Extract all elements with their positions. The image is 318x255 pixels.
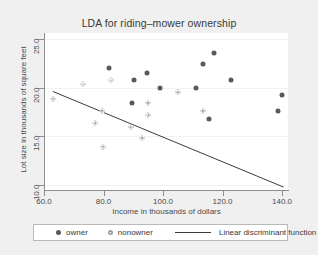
x-axis-label: Income in thousands of dollars xyxy=(44,207,289,216)
data-point-nonowner xyxy=(145,112,150,117)
legend-label-nonowner: nonowner xyxy=(118,228,153,237)
data-point-owner xyxy=(275,109,280,114)
data-point-owner xyxy=(211,50,216,55)
data-point-nonowner xyxy=(80,81,85,86)
data-point-nonowner xyxy=(175,89,180,94)
y-tick-label: 25.0 xyxy=(33,38,42,54)
x-tick xyxy=(104,191,105,196)
data-point-nonowner xyxy=(100,145,105,150)
owner-marker-icon xyxy=(56,230,61,235)
chart-title: LDA for riding–mower ownership xyxy=(0,17,318,29)
x-tick xyxy=(163,191,164,196)
data-point-nonowner xyxy=(129,124,134,129)
data-point-owner xyxy=(201,62,206,67)
data-point-owner xyxy=(193,85,198,90)
x-tick-label: 120.0 xyxy=(213,197,233,206)
data-point-owner xyxy=(107,66,112,71)
x-tick-label: 60.0 xyxy=(36,197,52,206)
chart-figure: LDA for riding–mower ownership 10.015.02… xyxy=(0,0,318,255)
x-tick xyxy=(223,191,224,196)
discriminant-line-path xyxy=(53,92,284,188)
linear-discriminant-line xyxy=(44,33,288,190)
chart-legend: owner nonowner Linear discriminant funct… xyxy=(33,224,288,241)
data-point-nonowner xyxy=(92,120,97,125)
data-point-nonowner xyxy=(146,101,151,106)
x-tick-label: 100.0 xyxy=(153,197,173,206)
data-point-owner xyxy=(207,116,212,121)
x-tick xyxy=(44,191,45,196)
legend-item-discriminant: Linear discriminant function xyxy=(175,225,316,240)
legend-item-owner: owner xyxy=(56,225,88,240)
legend-label-owner: owner xyxy=(66,228,88,237)
data-point-nonowner xyxy=(139,136,144,141)
legend-label-discriminant: Linear discriminant function xyxy=(219,228,316,237)
line-swatch-icon xyxy=(175,232,211,233)
data-point-owner xyxy=(280,93,285,98)
y-tick-label: 20.0 xyxy=(33,87,42,103)
x-tick-label: 80.0 xyxy=(96,197,112,206)
x-tick xyxy=(282,191,283,196)
legend-item-nonowner: nonowner xyxy=(108,225,153,240)
data-point-nonowner xyxy=(50,97,55,102)
y-tick-label: 15.0 xyxy=(33,136,42,152)
data-point-owner xyxy=(132,77,137,82)
data-point-nonowner xyxy=(201,109,206,114)
data-point-owner xyxy=(129,101,134,106)
data-point-owner xyxy=(158,85,163,90)
x-tick-label: 140.0 xyxy=(272,197,292,206)
data-point-owner xyxy=(144,70,149,75)
data-point-nonowner xyxy=(100,109,105,114)
x-axis-line xyxy=(44,190,289,191)
data-point-owner xyxy=(229,77,234,82)
y-axis-label: Lot size in thousands of square feet xyxy=(19,30,28,190)
data-point-nonowner xyxy=(108,77,113,82)
nonowner-marker-icon xyxy=(108,230,113,235)
